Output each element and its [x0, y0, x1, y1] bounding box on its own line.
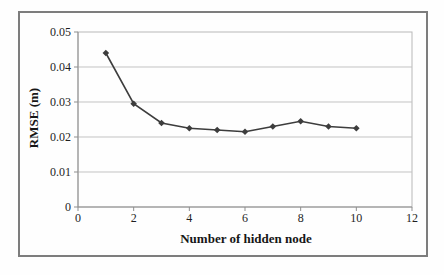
plot-border	[78, 32, 412, 207]
x-tick-label: 0	[75, 211, 81, 225]
diamond-marker	[103, 50, 110, 57]
x-tick-label: 12	[406, 211, 418, 225]
diamond-marker	[242, 128, 249, 135]
y-tick-label: 0.02	[50, 130, 71, 144]
diamond-marker	[353, 125, 360, 132]
diamond-marker	[186, 125, 193, 132]
axis-ticks	[74, 32, 412, 211]
line-chart: 00.010.020.030.040.05024681012 RMSE (m) …	[0, 0, 444, 275]
x-tick-label: 4	[186, 211, 192, 225]
series-line	[106, 53, 357, 132]
diamond-marker	[270, 123, 277, 130]
figure: 00.010.020.030.040.05024681012 RMSE (m) …	[0, 0, 444, 275]
y-tick-label: 0.01	[50, 165, 71, 179]
y-axis-title: RMSE (m)	[26, 88, 41, 148]
diamond-marker	[214, 127, 221, 134]
diamond-marker	[297, 118, 304, 125]
y-tick-label: 0	[65, 200, 71, 214]
x-tick-label: 2	[131, 211, 137, 225]
plot-area-border	[78, 32, 412, 207]
gridlines	[78, 67, 412, 172]
axes	[78, 32, 412, 207]
x-tick-label: 8	[298, 211, 304, 225]
rmse-series	[103, 50, 360, 135]
diamond-marker	[325, 123, 332, 130]
x-tick-label: 6	[242, 211, 248, 225]
y-tick-label: 0.03	[50, 95, 71, 109]
x-axis-title: Number of hidden node	[180, 231, 312, 246]
y-tick-label: 0.04	[50, 60, 71, 74]
y-tick-label: 0.05	[50, 25, 71, 39]
x-tick-label: 10	[350, 211, 362, 225]
